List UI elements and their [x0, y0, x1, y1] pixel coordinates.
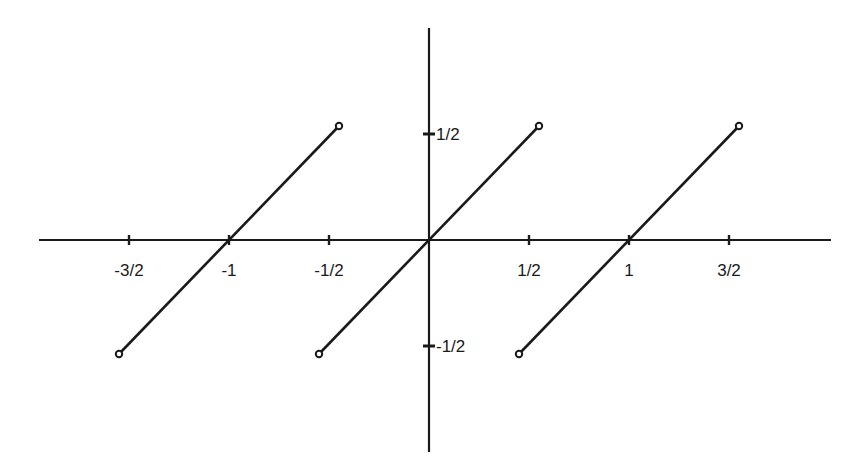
x-tick-label: 1	[624, 261, 633, 280]
open-endpoint-marker	[116, 351, 122, 357]
y-tick-label: -1/2	[436, 337, 465, 356]
open-endpoint-marker	[536, 123, 542, 129]
x-tick-label: 1/2	[517, 261, 541, 280]
open-endpoint-marker	[316, 351, 322, 357]
x-tick-label: -3/2	[114, 261, 143, 280]
open-endpoint-marker	[516, 351, 522, 357]
x-tick-label: -1/2	[314, 261, 343, 280]
open-endpoint-marker	[336, 123, 342, 129]
sawtooth-plot: -3/2-1-1/21/213/2 1/2-1/2	[0, 0, 861, 472]
y-tick-label: 1/2	[436, 125, 460, 144]
open-endpoint-marker	[736, 123, 742, 129]
x-tick-label: 3/2	[717, 261, 741, 280]
x-tick-label: -1	[221, 261, 236, 280]
